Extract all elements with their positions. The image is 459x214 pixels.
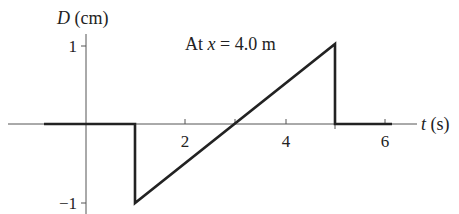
- y-axis-title: D (cm): [56, 8, 108, 29]
- annotation-prefix: At: [185, 34, 208, 54]
- y-axis-unit: (cm): [70, 8, 108, 29]
- x-tick-label-6: 6: [381, 132, 390, 151]
- annotation-suffix: = 4.0 m: [216, 34, 276, 54]
- y-axis-var: D: [56, 8, 70, 28]
- displacement-time-graph: 2 4 6 1 −1 D (cm) t (s) At x = 4.0 m: [0, 0, 459, 214]
- x-tick-label-2: 2: [181, 132, 190, 151]
- y-tick-label-1: 1: [69, 37, 78, 56]
- x-tick-label-4: 4: [282, 132, 291, 151]
- position-annotation: At x = 4.0 m: [185, 34, 276, 54]
- x-axis-unit: (s): [426, 114, 450, 135]
- y-tick-label-minus1: −1: [59, 194, 77, 213]
- x-axis-title: t (s): [421, 114, 450, 135]
- annotation-var: x: [207, 34, 216, 54]
